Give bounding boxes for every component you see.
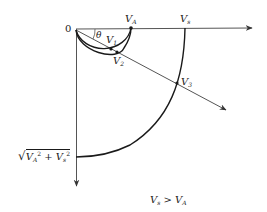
- condition-label: Vs > VA: [150, 195, 187, 206]
- v1-label: V1: [106, 35, 117, 46]
- v3-sub: 3: [188, 81, 192, 88]
- mag-v-s-base: V: [56, 151, 63, 162]
- origin-label: 0: [65, 24, 71, 34]
- mag-plus: +: [41, 151, 56, 162]
- v-s-label: Vs: [180, 14, 190, 25]
- cond-rhs-sub: A: [182, 199, 186, 206]
- v2-label: V2: [113, 56, 124, 67]
- diagram-canvas: [0, 0, 267, 212]
- theta-label: θ: [96, 31, 101, 40]
- point-v1: [109, 47, 112, 50]
- v-a-label: VA: [125, 14, 137, 25]
- v1-sub: 1: [113, 39, 117, 46]
- point-v3: [175, 81, 178, 84]
- v3-label: V3: [181, 77, 192, 88]
- horizontal-axis: [76, 28, 252, 29]
- point-v-a: [129, 26, 133, 30]
- cond-op: >: [160, 194, 175, 205]
- v-s-sub: s: [187, 18, 190, 25]
- point-v2: [115, 50, 118, 53]
- magnitude-label: √VA2 + Vs2: [18, 150, 70, 163]
- v2-sub: 2: [120, 60, 124, 67]
- mag-v-a-base: V: [26, 151, 33, 162]
- v-a-sub: A: [132, 18, 136, 25]
- mag-v-a-sub: A: [33, 156, 37, 163]
- mag-exp-2: 2: [66, 150, 70, 157]
- mag-v-s-sub: s: [63, 156, 66, 163]
- sqrt-sign: √: [18, 149, 26, 163]
- theta-direction-line: [76, 30, 226, 110]
- theta-angle-arc: [93, 29, 95, 39]
